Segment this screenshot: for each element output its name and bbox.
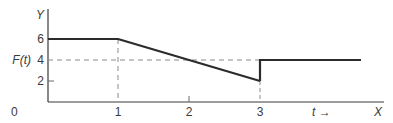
x-tick-label-2: 2 bbox=[186, 106, 193, 118]
y-tick-label-4: 4 bbox=[37, 54, 44, 66]
t-direction-label: t → bbox=[312, 106, 331, 118]
function-curve-part2 bbox=[260, 60, 361, 81]
x-tick-label-1: 1 bbox=[115, 106, 122, 118]
y-tick-label-2: 2 bbox=[37, 75, 44, 87]
x-tick-label-3: 3 bbox=[257, 106, 264, 118]
function-label: F(t) bbox=[12, 54, 31, 66]
origin-label: 0 bbox=[11, 106, 18, 118]
chart-plot bbox=[0, 0, 393, 123]
y-tick-label-6: 6 bbox=[37, 33, 44, 45]
y-axis-label: Y bbox=[36, 9, 44, 21]
x-axis-label: X bbox=[374, 106, 382, 118]
